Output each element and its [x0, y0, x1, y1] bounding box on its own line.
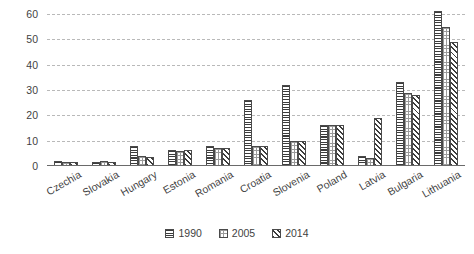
bar-romania-1990 [206, 146, 214, 166]
x-axis-label-bulgaria: Bulgaria [386, 168, 425, 198]
bar-latvia-2014 [374, 118, 382, 166]
bar-group-romania [199, 14, 237, 166]
x-axis-label-poland: Poland [315, 168, 349, 195]
x-axis-label-romania: Romania [193, 168, 235, 199]
legend-swatch-icon-2005 [219, 229, 228, 238]
bar-group-hungary [123, 14, 161, 166]
bar-group-lithuania [427, 14, 465, 166]
bar-hungary-1990 [130, 146, 138, 166]
bar-lithuania-2014 [450, 42, 458, 166]
bar-group-slovenia [275, 14, 313, 166]
x-axis-label-croatia: Croatia [238, 168, 273, 195]
bar-poland-2005 [328, 125, 336, 166]
bar-groups [47, 14, 465, 166]
bar-estonia-1990 [168, 150, 176, 166]
y-axis: 0102030405060 [0, 14, 43, 166]
y-axis-tick-label: 40 [26, 60, 38, 70]
x-axis-label-latvia: Latvia [357, 168, 387, 192]
x-axis-label-estonia: Estonia [161, 168, 197, 196]
legend-swatch-icon-2014 [272, 229, 281, 238]
bar-poland-2014 [336, 125, 344, 166]
bar-slovenia-2005 [290, 141, 298, 166]
bar-romania-2014 [222, 148, 230, 166]
bar-group-slovakia [85, 14, 123, 166]
bar-bulgaria-1990 [396, 82, 404, 166]
bar-croatia-2005 [252, 146, 260, 166]
bar-group-latvia [351, 14, 389, 166]
legend-label-2014: 2014 [285, 228, 308, 238]
chart-legend: 199020052014 [0, 228, 474, 238]
bar-lithuania-2005 [442, 27, 450, 166]
bar-estonia-2014 [184, 150, 192, 166]
x-axis-label-slovakia: Slovakia [81, 168, 121, 198]
y-axis-tick-label: 30 [26, 85, 38, 95]
bar-group-poland [313, 14, 351, 166]
bar-croatia-2014 [260, 146, 268, 166]
legend-swatch-icon-1990 [165, 229, 174, 238]
legend-item-1990: 1990 [165, 228, 201, 238]
bar-bulgaria-2005 [404, 93, 412, 166]
y-axis-tick-label: 10 [26, 136, 38, 146]
legend-label-1990: 1990 [178, 228, 201, 238]
y-axis-tick-label: 50 [26, 34, 38, 44]
y-axis-tick-label: 60 [26, 9, 38, 19]
bar-group-croatia [237, 14, 275, 166]
bar-group-estonia [161, 14, 199, 166]
bar-estonia-2005 [176, 151, 184, 166]
x-axis-category-labels: CzechiaSlovakiaHungaryEstoniaRomaniaCroa… [47, 166, 465, 224]
bar-lithuania-1990 [434, 11, 442, 166]
bar-bulgaria-2014 [412, 95, 420, 166]
bar-slovenia-2014 [298, 141, 306, 166]
bar-chart: 0102030405060 CzechiaSlovakiaHungaryEsto… [0, 0, 474, 254]
bar-croatia-1990 [244, 100, 252, 166]
x-axis-label-lithuania: Lithuania [420, 168, 463, 200]
legend-label-2005: 2005 [232, 228, 255, 238]
bar-poland-1990 [320, 125, 328, 166]
x-axis-label-czechia: Czechia [44, 168, 83, 197]
legend-item-2014: 2014 [272, 228, 308, 238]
y-axis-tick-label: 20 [26, 110, 38, 120]
plot-area [47, 14, 465, 166]
bar-group-bulgaria [389, 14, 427, 166]
bar-slovenia-1990 [282, 85, 290, 166]
x-axis-label-hungary: Hungary [119, 168, 159, 198]
bar-group-czechia [47, 14, 85, 166]
x-axis-label-slovenia: Slovenia [270, 168, 311, 199]
y-axis-tick-label: 0 [32, 161, 38, 171]
bar-romania-2005 [214, 148, 222, 166]
legend-item-2005: 2005 [219, 228, 255, 238]
